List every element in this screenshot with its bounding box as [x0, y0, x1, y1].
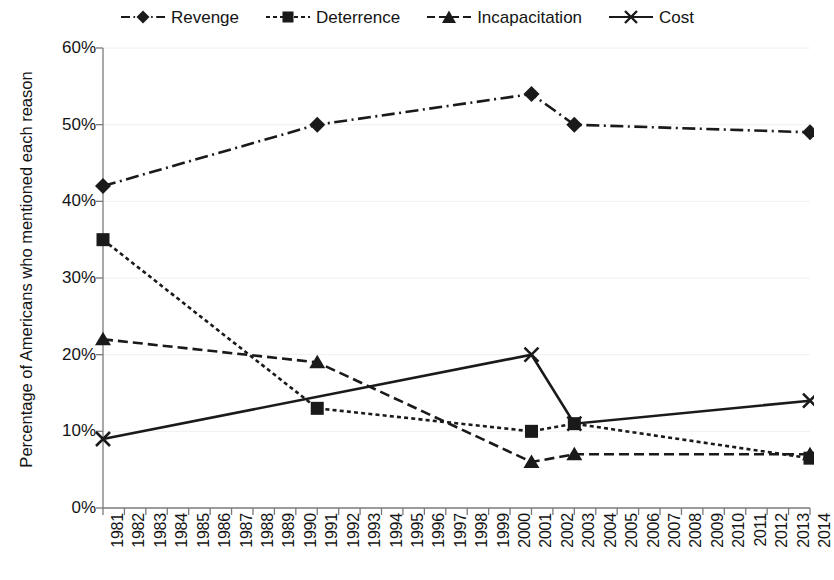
- x-axis-tick-label: 2002: [559, 513, 577, 548]
- x-axis-tick-label: 1985: [195, 513, 213, 548]
- x-axis-tick-label: 2013: [795, 513, 813, 548]
- x-axis-tick-label: 2011: [752, 513, 770, 547]
- x-axis-tick-label: 2004: [602, 513, 620, 548]
- x-axis-tick-label: 2010: [730, 513, 748, 548]
- x-axis-tick-label: 2006: [645, 513, 663, 548]
- x-axis-tick-label: 2012: [773, 513, 791, 548]
- x-axis-tick-label: 1982: [130, 513, 148, 548]
- x-axis-tick-label: 2003: [580, 513, 598, 548]
- x-axis-tick-label: 1999: [495, 513, 513, 548]
- x-axis-tick-label: 1983: [152, 513, 170, 548]
- x-axis-tick-label: 1994: [388, 513, 406, 548]
- x-axis-tick-label: 1981: [109, 513, 127, 548]
- x-axis-tick-label: 1997: [452, 513, 470, 548]
- x-axis-tick-label: 2014: [816, 513, 834, 548]
- x-axis-tick-label: 1992: [345, 513, 363, 548]
- x-axis-tick-label: 2001: [537, 513, 555, 548]
- x-axis-tick-label: 1990: [302, 513, 320, 548]
- x-axis-tick-label: 1991: [323, 513, 341, 548]
- x-axis-tick-label: 2007: [666, 513, 684, 548]
- x-axis-tick-label: 1989: [280, 513, 298, 548]
- x-axis-tick-label: 1998: [473, 513, 491, 548]
- x-axis-tick-label: 1988: [259, 513, 277, 548]
- x-axis-tick-label: 2009: [709, 513, 727, 548]
- x-axis-tick-label: 1995: [409, 513, 427, 548]
- x-axis-tick-label: 1993: [366, 513, 384, 548]
- x-axis-tick-label: 2005: [623, 513, 641, 548]
- x-axis-tick-label: 2000: [516, 513, 534, 548]
- x-axis-tick-label: 1986: [216, 513, 234, 548]
- x-axis-tick-label: 1996: [430, 513, 448, 548]
- x-axis-tick-label: 1984: [173, 513, 191, 548]
- x-axis-tick-label: 2008: [687, 513, 705, 548]
- x-axis-tick-label: 1987: [238, 513, 256, 548]
